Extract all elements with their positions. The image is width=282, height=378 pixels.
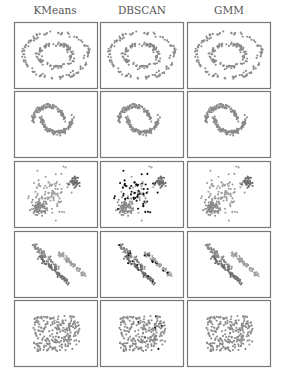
noise-point <box>130 193 132 195</box>
cluster-point <box>39 333 41 335</box>
cluster-point <box>233 112 235 114</box>
cluster-point <box>73 36 75 38</box>
cluster-point <box>56 332 58 334</box>
cluster-point <box>215 260 217 262</box>
cluster-point <box>123 247 125 249</box>
cluster-point <box>162 177 164 179</box>
cluster-point <box>216 345 218 347</box>
cluster-point <box>209 317 211 319</box>
cluster-point <box>47 343 49 345</box>
cluster-point <box>210 258 212 260</box>
cluster-point <box>247 327 249 329</box>
cluster-point <box>131 107 133 109</box>
cluster-point <box>239 330 241 332</box>
cluster-point <box>73 116 75 118</box>
cluster-point <box>228 268 230 270</box>
cluster-point <box>55 341 57 343</box>
cluster-point <box>234 115 236 117</box>
cluster-point <box>156 123 158 125</box>
cluster-point <box>138 336 140 338</box>
cluster-point <box>48 185 50 187</box>
cluster-point <box>84 64 86 66</box>
cluster-point <box>129 33 131 35</box>
cluster-point <box>135 105 137 107</box>
cluster-point <box>131 323 133 325</box>
cluster-point <box>232 323 234 325</box>
cluster-point <box>23 61 25 63</box>
panel-noisy-moons-gmm <box>188 92 271 158</box>
cluster-point <box>64 336 66 338</box>
cluster-point <box>136 267 138 269</box>
cluster-point <box>142 324 144 326</box>
cluster-point <box>237 345 239 347</box>
cluster-point <box>45 345 47 347</box>
cluster-point <box>133 338 135 340</box>
cluster-point <box>217 45 219 47</box>
cluster-point <box>48 43 50 45</box>
cluster-point <box>140 270 142 272</box>
cluster-point <box>169 57 171 59</box>
cluster-point <box>241 337 243 339</box>
cluster-point <box>58 341 60 343</box>
cluster-point <box>54 270 56 272</box>
cluster-point <box>150 343 152 345</box>
cluster-point <box>66 51 68 53</box>
noise-point <box>124 198 126 200</box>
cluster-point <box>221 45 223 47</box>
cluster-point <box>61 343 63 345</box>
cluster-point <box>39 317 41 319</box>
noise-point <box>129 252 131 254</box>
cluster-point <box>235 165 237 167</box>
cluster-point <box>239 51 241 53</box>
cluster-point <box>73 187 75 189</box>
cluster-point <box>224 208 226 210</box>
cluster-point <box>232 276 234 278</box>
cluster-point <box>45 107 47 109</box>
cluster-point <box>71 348 73 350</box>
cluster-point <box>61 188 63 190</box>
cluster-point <box>137 77 139 79</box>
cluster-point <box>56 134 58 136</box>
cluster-point <box>112 64 114 66</box>
panel-blobs-varied-gmm <box>188 162 271 228</box>
cluster-point <box>120 347 122 349</box>
cluster-point <box>209 111 211 113</box>
cluster-point <box>41 262 43 264</box>
cluster-point <box>231 272 233 274</box>
cluster-point <box>256 57 258 59</box>
cluster-point <box>225 196 227 198</box>
cluster-point <box>150 345 152 347</box>
cluster-point <box>125 317 127 319</box>
cluster-point <box>213 204 215 206</box>
cluster-point <box>159 321 161 323</box>
cluster-point <box>77 72 79 74</box>
cluster-point <box>41 258 43 260</box>
cluster-point <box>207 111 209 113</box>
cluster-point <box>46 260 48 262</box>
cluster-point <box>57 67 59 69</box>
cluster-point <box>229 321 231 323</box>
cluster-point <box>35 74 37 76</box>
cluster-point <box>130 212 132 214</box>
cluster-point <box>207 317 209 319</box>
cluster-point <box>154 258 156 260</box>
cluster-point <box>224 129 226 131</box>
cluster-point <box>83 57 85 59</box>
cluster-point <box>231 341 233 343</box>
cluster-point <box>158 323 160 325</box>
cluster-point <box>232 331 234 333</box>
cluster-point <box>132 187 134 189</box>
cluster-point <box>152 74 154 76</box>
cluster-point <box>222 335 224 337</box>
cluster-point <box>204 115 206 117</box>
cluster-point <box>27 45 29 47</box>
cluster-point <box>210 58 212 60</box>
cluster-point <box>32 327 34 329</box>
cluster-point <box>136 318 138 320</box>
cluster-point <box>230 328 232 330</box>
cluster-point <box>137 131 139 133</box>
cluster-point <box>63 118 65 120</box>
cluster-point <box>228 185 230 187</box>
cluster-point <box>249 183 251 185</box>
cluster-point <box>108 48 110 50</box>
